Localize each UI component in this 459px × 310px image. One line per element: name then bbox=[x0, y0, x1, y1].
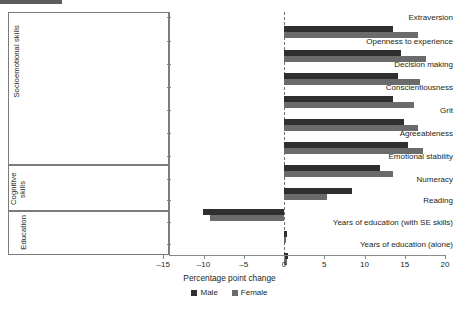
x-tick-neg10 bbox=[204, 255, 205, 259]
x-tick-label-neg10: –10 bbox=[197, 260, 210, 269]
x-tick-15 bbox=[405, 255, 406, 259]
zero-reference-line bbox=[284, 12, 285, 255]
legend-label-male: Male bbox=[200, 288, 217, 297]
legend-item-female: Female bbox=[232, 288, 268, 297]
x-tick-label-15: 15 bbox=[400, 260, 409, 269]
bar-female-grit bbox=[284, 125, 418, 131]
chart-legend: Male Female bbox=[0, 288, 459, 297]
category-group-panel: Socioemotional skills Cognitive skills E… bbox=[8, 12, 169, 255]
x-tick-label-20: 20 bbox=[441, 260, 450, 269]
plot-area bbox=[169, 12, 445, 255]
legend-label-female: Female bbox=[241, 288, 268, 297]
x-axis-title: Percentage point change bbox=[0, 273, 459, 283]
x-tick-5 bbox=[324, 255, 325, 259]
group-box-socioemotional-skills: Socioemotional skills bbox=[8, 12, 169, 165]
x-tick-label-neg5: –5 bbox=[239, 260, 248, 269]
legend-swatch-female bbox=[232, 290, 238, 296]
group-box-cognitive-skills: Cognitive skills bbox=[8, 165, 169, 211]
x-tick-label-10: 10 bbox=[360, 260, 369, 269]
group-box-education: Education bbox=[8, 211, 169, 255]
x-tick-label-neg15: –15 bbox=[157, 260, 170, 269]
bar-female-conscientiousness bbox=[284, 102, 414, 108]
group-label-socioemotional-skills: Socioemotional skills bbox=[12, 25, 21, 98]
bar-female-emotional-stability bbox=[284, 171, 393, 177]
group-label-education: Education bbox=[19, 215, 28, 250]
legend-swatch-male bbox=[191, 290, 197, 296]
bar-female-numeracy bbox=[284, 194, 327, 200]
x-tick-10 bbox=[365, 255, 366, 259]
bar-female-reading bbox=[210, 215, 284, 221]
bar-female-extraversion bbox=[284, 32, 418, 38]
bar-female-decision-making bbox=[284, 79, 420, 85]
caption-artifact bbox=[0, 0, 62, 4]
legend-item-male: Male bbox=[191, 288, 217, 297]
bar-female-years-of-education-with-se-skills bbox=[284, 237, 286, 243]
chart-figure: Socioemotional skills Cognitive skills E… bbox=[0, 0, 459, 310]
x-tick-label-5: 5 bbox=[322, 260, 326, 269]
x-tick-neg5 bbox=[244, 255, 245, 259]
x-axis-line bbox=[169, 255, 445, 256]
x-tick-neg15 bbox=[163, 255, 164, 259]
x-tick-label-0: 0 bbox=[282, 260, 286, 269]
bar-female-agreeableness bbox=[284, 148, 423, 154]
bar-female-openness-to-experience bbox=[284, 56, 426, 62]
group-label-cognitive-skills: Cognitive skills bbox=[10, 168, 26, 210]
x-tick-20 bbox=[445, 255, 446, 259]
x-tick-0 bbox=[284, 255, 285, 259]
